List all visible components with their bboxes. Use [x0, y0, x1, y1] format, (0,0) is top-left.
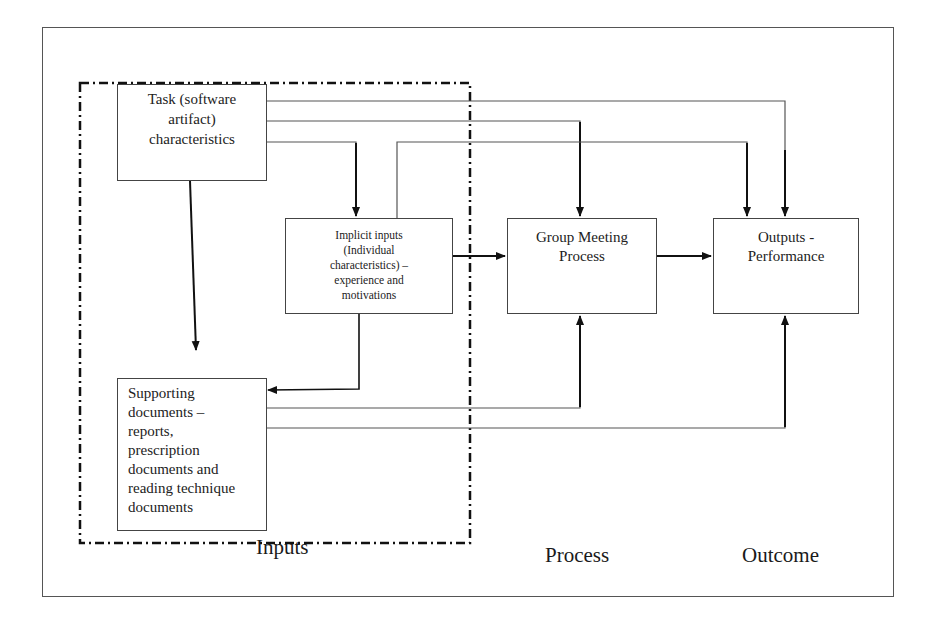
task-characteristics-label: Task (software artifact) characteristics [118, 89, 266, 149]
implicit-inputs-label: Implicit inputs (Individual characterist… [286, 228, 452, 303]
connector-task-to-group [266, 121, 580, 216]
connector-task-to-outputs [266, 101, 785, 216]
connector-support-to-group [267, 316, 580, 408]
outputs-performance-label: Outputs - Performance [714, 228, 858, 266]
section-label-process: Process [545, 543, 609, 568]
supporting-documents-box: Supporting documents – reports, prescrip… [117, 378, 267, 531]
connector-support-to-outputs [267, 316, 785, 428]
section-label-inputs: Inputs [256, 535, 309, 560]
outputs-performance-box: Outputs - Performance [713, 218, 859, 314]
implicit-inputs-box: Implicit inputs (Individual characterist… [285, 218, 453, 314]
group-meeting-process-label: Group Meeting Process [508, 228, 656, 266]
section-label-outcome: Outcome [742, 543, 819, 568]
group-meeting-process-box: Group Meeting Process [507, 218, 657, 314]
supporting-documents-label: Supporting documents – reports, prescrip… [128, 384, 266, 517]
connector-implicit-to-support [268, 314, 359, 390]
connector-task-to-support [190, 181, 196, 350]
connector-task-to-implicit [266, 142, 356, 216]
task-characteristics-box: Task (software artifact) characteristics [117, 84, 267, 181]
connector-implicit-to-outputs [397, 142, 747, 218]
